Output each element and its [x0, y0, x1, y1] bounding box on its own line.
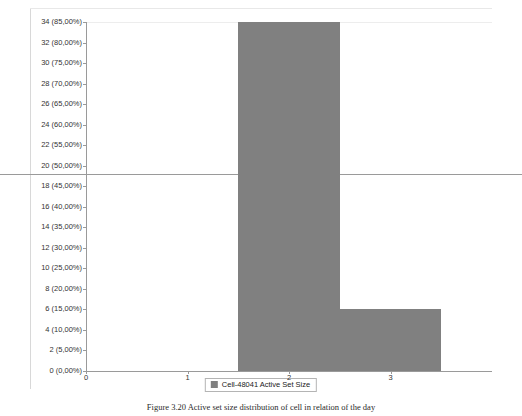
y-axis-tick-mark [83, 22, 86, 23]
y-axis-tick-mark [83, 268, 86, 269]
y-axis-tick-mark [83, 309, 86, 310]
bars-group [86, 22, 492, 371]
y-axis-tick-label: 6 (15,00%) [45, 306, 82, 314]
bar [238, 22, 340, 371]
y-axis-tick-label: 24 (60,00%) [41, 121, 82, 129]
y-axis-tick-label: 26 (65,00%) [41, 100, 82, 108]
y-axis-tick-label: 2 (5,00%) [49, 347, 82, 355]
y-axis-tick-mark [83, 186, 86, 187]
y-axis-tick-label: 28 (70,00%) [41, 80, 82, 88]
y-axis-tick-mark [83, 248, 86, 249]
y-axis-tick-label: 34 (85,00%) [41, 18, 82, 26]
y-axis-tick-label: 20 (50,00%) [41, 162, 82, 170]
y-axis-tick-label: 22 (55,00%) [41, 141, 82, 149]
x-axis-tick-label: 2 [287, 374, 291, 382]
y-axis-tick-mark [83, 84, 86, 85]
y-axis-tick-mark [83, 289, 86, 290]
y-axis-tick-mark [83, 63, 86, 64]
figure-caption: Figure 3.20 Active set size distribution… [0, 402, 522, 412]
y-axis-tick-mark [83, 350, 86, 351]
y-axis-tick-mark [83, 166, 86, 167]
chart-legend: Cell-48041 Active Set Size [205, 378, 317, 392]
y-axis-tick-mark [83, 104, 86, 105]
figure-frame-top-border [30, 8, 492, 9]
figure-caption-text: Figure 3.20 Active set size distribution… [147, 402, 375, 412]
y-axis-tick-mark [83, 227, 86, 228]
y-axis-tick-mark [83, 43, 86, 44]
y-axis-tick-mark [83, 330, 86, 331]
y-axis-tick-labels: 34 (85,00%)32 (80,00%)30 (75,00%)28 (70,… [0, 0, 82, 416]
x-axis-tick-mark [289, 371, 290, 374]
y-axis-tick-mark [83, 145, 86, 146]
y-axis-tick-mark [83, 125, 86, 126]
y-axis-tick-label: 4 (10,00%) [45, 326, 82, 334]
legend-color-swatch-icon [211, 381, 218, 388]
x-axis-tick-label: 1 [185, 374, 189, 382]
y-axis-tick-label: 30 (75,00%) [41, 59, 82, 67]
y-axis-tick-label: 10 (25,00%) [41, 265, 82, 273]
figure-container: 34 (85,00%)32 (80,00%)30 (75,00%)28 (70,… [0, 0, 522, 416]
y-axis-tick-label: 16 (40,00%) [41, 203, 82, 211]
x-axis-tick-label: 0 [84, 374, 88, 382]
y-axis-tick-label: 32 (80,00%) [41, 39, 82, 47]
legend-item-label: Cell-48041 Active Set Size [222, 381, 310, 389]
y-axis-tick-label: 12 (30,00%) [41, 244, 82, 252]
bar [340, 309, 442, 371]
x-axis-tick-mark [391, 371, 392, 374]
y-axis-tick-mark [83, 207, 86, 208]
x-axis-tick-label: 3 [388, 374, 392, 382]
y-axis-tick-label: 8 (20,00%) [45, 285, 82, 293]
x-axis-tick-mark [188, 371, 189, 374]
y-axis-tick-label: 0 (0,00%) [49, 367, 82, 375]
y-axis-tick-label: 18 (45,00%) [41, 182, 82, 190]
y-axis-tick-label: 14 (35,00%) [41, 224, 82, 232]
x-axis-tick-mark [86, 371, 87, 374]
